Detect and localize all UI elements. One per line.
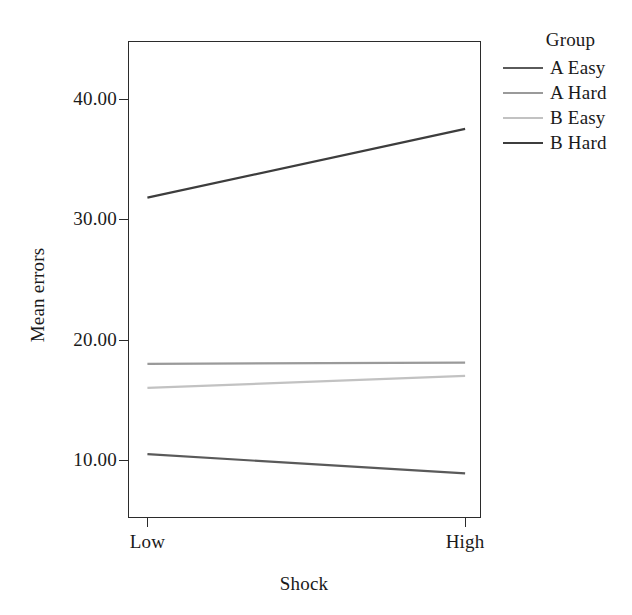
y-axis-tick [119,460,128,461]
legend-line-swatch-icon [503,117,543,119]
legend-item-list: A EasyA HardB EasyB Hard [503,55,632,155]
legend-title: Group [503,28,632,52]
x-axis-tick [465,518,466,527]
y-axis-tick [119,340,128,341]
legend-item[interactable]: A Hard [503,80,632,105]
x-axis-tick-label: Low [130,531,165,553]
legend-line-swatch-icon [503,67,543,69]
y-axis-tick-label: 30.00 [7,209,117,228]
x-axis-title: Shock [280,573,329,595]
legend-item-label: A Hard [550,82,607,104]
legend: Group A EasyA HardB EasyB Hard [503,28,632,155]
legend-item-label: A Easy [550,57,606,79]
y-axis-tick [119,219,128,220]
x-axis-tick [147,518,148,527]
legend-item[interactable]: A Easy [503,55,632,80]
legend-line-swatch-icon [503,142,543,144]
y-axis-tick-label: 40.00 [7,89,117,108]
data-series-layer [128,41,481,518]
legend-item[interactable]: B Easy [503,105,632,130]
series-line-a-easy [147,454,465,473]
x-axis-tick-label: High [446,531,485,553]
legend-item[interactable]: B Hard [503,130,632,155]
line-chart: Mean errors 40.0030.0020.0010.00 LowHigh… [0,0,632,615]
series-line-b-easy [147,376,465,388]
series-line-b-hard [147,129,465,198]
y-axis-tick [119,99,128,100]
y-axis-tick-label: 10.00 [7,450,117,469]
y-axis-tick-label: 20.00 [7,330,117,349]
y-axis-title: Mean errors [27,248,49,343]
legend-item-label: B Easy [550,107,606,129]
legend-line-swatch-icon [503,92,543,94]
series-line-a-hard [147,363,465,364]
legend-item-label: B Hard [550,132,607,154]
